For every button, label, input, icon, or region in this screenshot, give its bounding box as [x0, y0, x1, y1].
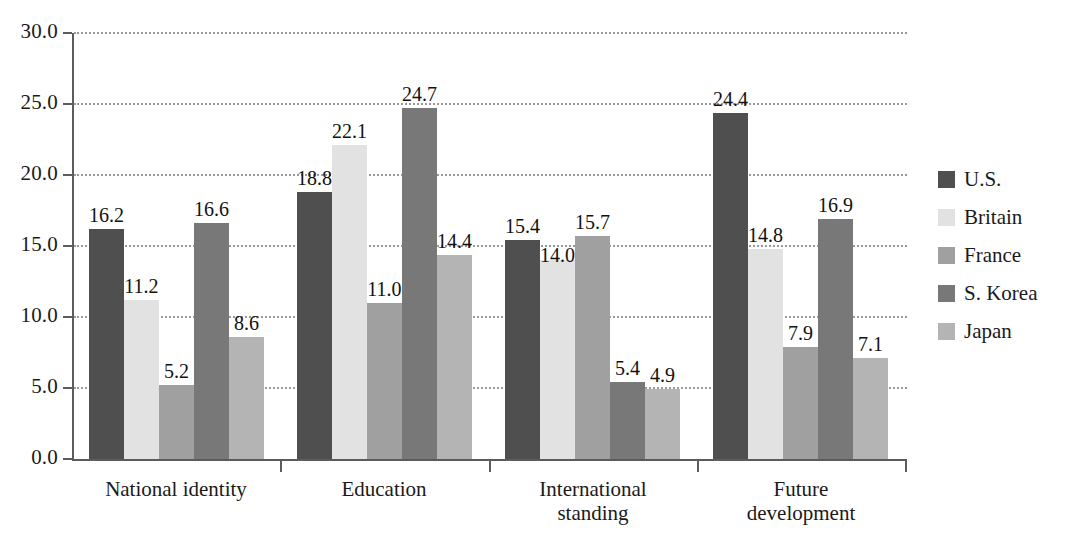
bar-value-label: 4.9	[632, 364, 693, 387]
bar	[713, 113, 748, 459]
legend-label: Japan	[964, 319, 1012, 344]
bar	[159, 385, 194, 459]
bar	[194, 223, 229, 459]
legend-swatch-icon	[938, 209, 955, 226]
y-axis-tick-label: 10.0	[0, 303, 58, 328]
bar	[332, 145, 367, 459]
gridline	[74, 103, 907, 105]
y-axis-tick-label: 0.0	[0, 445, 58, 470]
bar-value-label: 16.9	[805, 194, 866, 217]
legend-label: S. Korea	[964, 281, 1037, 306]
legend-swatch-icon	[938, 323, 955, 340]
legend-item: S. Korea	[938, 274, 1068, 312]
bar-value-label: 14.8	[735, 224, 796, 247]
legend-label: France	[964, 243, 1021, 268]
bar	[89, 229, 124, 459]
bar-value-label: 8.6	[216, 312, 277, 335]
y-axis-tick	[63, 103, 72, 105]
bar	[402, 108, 437, 459]
legend-item: Britain	[938, 198, 1068, 236]
bar-value-label: 24.4	[700, 88, 761, 111]
legend-label: Britain	[964, 205, 1022, 230]
legend-swatch-icon	[938, 171, 955, 188]
y-axis-tick	[63, 387, 72, 389]
y-axis-tick	[63, 316, 72, 318]
bar	[645, 389, 680, 459]
category-label: International standing	[489, 477, 697, 525]
y-axis-tick-label: 15.0	[0, 232, 58, 257]
x-axis-tick	[280, 461, 282, 472]
bar	[853, 358, 888, 459]
bar-value-label: 15.7	[562, 211, 623, 234]
bar	[783, 347, 818, 459]
bar	[437, 255, 472, 459]
category-label: Future development	[697, 477, 905, 525]
bar-chart: 0.05.010.015.020.025.030.0 National iden…	[0, 0, 1069, 543]
bar	[297, 192, 332, 459]
bar-value-label: 15.4	[492, 215, 553, 238]
legend-item: Japan	[938, 312, 1068, 350]
x-axis-tick	[905, 461, 907, 472]
y-axis-tick-label: 20.0	[0, 161, 58, 186]
y-axis-line	[72, 33, 74, 461]
chart-legend: U.S.BritainFranceS. KoreaJapan	[938, 160, 1068, 350]
legend-swatch-icon	[938, 285, 955, 302]
bar	[575, 236, 610, 459]
y-axis-tick	[63, 32, 72, 34]
y-axis-tick	[63, 245, 72, 247]
bar-value-label: 11.2	[111, 275, 172, 298]
category-label: National identity	[72, 477, 280, 501]
legend-item: France	[938, 236, 1068, 274]
category-label: Education	[280, 477, 488, 501]
bar-value-label: 7.1	[840, 333, 901, 356]
bar	[610, 382, 645, 459]
y-axis-tick-label: 25.0	[0, 90, 58, 115]
x-axis-tick	[697, 461, 699, 472]
bar-value-label: 14.4	[424, 230, 485, 253]
bar	[229, 337, 264, 459]
bar-value-label: 22.1	[319, 120, 380, 143]
x-axis-tick	[489, 461, 491, 472]
bar	[505, 240, 540, 459]
y-axis-tick	[63, 458, 72, 460]
bar-value-label: 16.6	[181, 198, 242, 221]
bar	[748, 249, 783, 459]
bar-value-label: 16.2	[76, 204, 137, 227]
gridline	[74, 174, 907, 176]
legend-item: U.S.	[938, 160, 1068, 198]
y-axis-tick-label: 30.0	[0, 19, 58, 44]
legend-label: U.S.	[964, 167, 1001, 192]
legend-swatch-icon	[938, 247, 955, 264]
y-axis-tick	[63, 174, 72, 176]
bar	[540, 260, 575, 459]
y-axis-tick-label: 5.0	[0, 374, 58, 399]
bar	[367, 303, 402, 459]
bar-value-label: 24.7	[389, 83, 450, 106]
gridline	[74, 32, 907, 34]
